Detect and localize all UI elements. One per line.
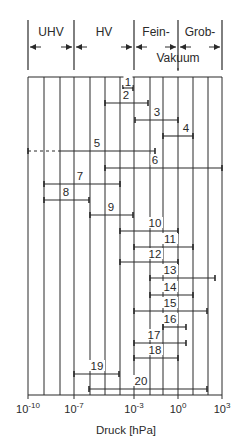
bar-label: 15 bbox=[164, 297, 177, 309]
axis-tick-label: 10-10 bbox=[16, 401, 40, 415]
bar-label: 19 bbox=[91, 360, 104, 372]
bar-label: 5 bbox=[94, 137, 100, 149]
arrow-left-icon bbox=[76, 44, 82, 50]
region-label-fein: Fein- bbox=[142, 25, 169, 39]
arrow-right-icon bbox=[126, 44, 132, 50]
bar-label: 17 bbox=[148, 329, 161, 341]
range-bar-20: 20 bbox=[89, 375, 207, 392]
range-bar-10: 10 bbox=[120, 217, 178, 234]
bar-label: 20 bbox=[135, 375, 148, 387]
range-bar-3: 3 bbox=[135, 106, 178, 123]
arrow-left-icon bbox=[136, 44, 142, 50]
x-axis-title: Druck [hPa] bbox=[96, 424, 156, 436]
axis-tick-label: 10-3 bbox=[124, 401, 144, 415]
axis-tick-label: 103 bbox=[214, 401, 231, 415]
range-bar-2: 2 bbox=[105, 89, 148, 106]
bar-label: 6 bbox=[152, 154, 158, 166]
axis-tick-label: 10-7 bbox=[64, 401, 84, 415]
bar-label: 11 bbox=[164, 233, 176, 245]
region-label-grob: Grob- bbox=[185, 25, 216, 39]
bar-label: 13 bbox=[164, 264, 177, 276]
arrow-right-icon bbox=[170, 44, 176, 50]
arrow-left-icon bbox=[30, 44, 36, 50]
bar-label: 7 bbox=[77, 170, 83, 182]
bar-label: 4 bbox=[183, 122, 190, 134]
range-bar-8: 8 bbox=[44, 186, 89, 203]
region-sublabel-vakuum: Vakuum bbox=[156, 51, 199, 65]
region-label-uhv: UHV bbox=[38, 25, 63, 39]
range-bar-11: 11 bbox=[134, 233, 193, 250]
range-bar-12: 12 bbox=[120, 248, 178, 265]
decade-grid bbox=[28, 77, 222, 395]
range-bar-14: 14 bbox=[150, 281, 193, 298]
range-bar-19: 19 bbox=[74, 360, 119, 377]
pressure-axis: 10-1010-710-3100103Druck [hPa] bbox=[16, 395, 231, 436]
arrow-left-icon bbox=[180, 44, 186, 50]
bar-label: 1 bbox=[125, 76, 131, 88]
vacuum-range-diagram: UHVHVFein-Grob-Vakuum 123456789101112131… bbox=[0, 0, 251, 444]
bar-label: 10 bbox=[149, 217, 162, 229]
bar-label: 3 bbox=[154, 106, 160, 118]
arrow-right-icon bbox=[66, 44, 72, 50]
bar-label: 16 bbox=[164, 313, 177, 325]
arrow-right-icon bbox=[214, 44, 220, 50]
vacuum-region-header: UHVHVFein-Grob-Vakuum bbox=[28, 20, 222, 71]
range-bar-13: 13 bbox=[150, 264, 215, 281]
range-bar-15: 15 bbox=[134, 297, 207, 314]
bar-label: 18 bbox=[149, 344, 162, 356]
bar-label: 2 bbox=[123, 89, 129, 101]
bar-label: 9 bbox=[108, 201, 114, 213]
bar-label: 14 bbox=[164, 281, 177, 293]
range-bar-18: 18 bbox=[134, 344, 178, 361]
range-bar-9: 9 bbox=[90, 201, 133, 218]
range-bar-16: 16 bbox=[162, 313, 186, 330]
axis-tick-label: 100 bbox=[170, 401, 187, 415]
bar-label: 8 bbox=[63, 186, 69, 198]
region-label-hv: HV bbox=[96, 25, 113, 39]
range-bar-5: 5 bbox=[28, 137, 155, 154]
range-bar-7: 7 bbox=[44, 170, 120, 187]
bar-label: 12 bbox=[149, 248, 162, 260]
